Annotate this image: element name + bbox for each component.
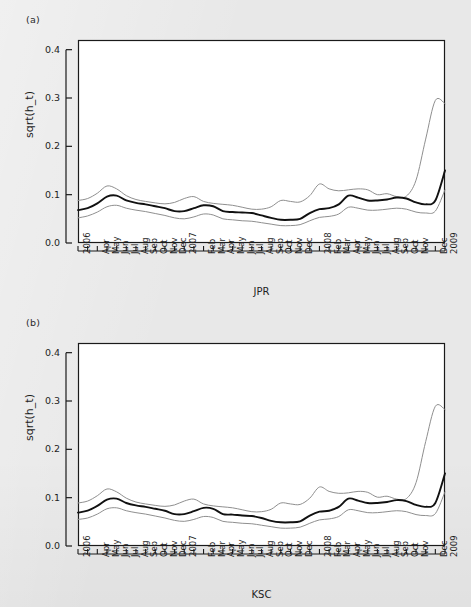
x-tick-label: Apr bbox=[226, 239, 236, 254]
panel-a-plot bbox=[0, 0, 471, 303]
x-tick-label: Feb bbox=[207, 542, 217, 557]
x-tick-label: Sep bbox=[149, 238, 159, 254]
x-tick-label: Apr bbox=[352, 239, 362, 254]
x-tick-label: Nov bbox=[294, 237, 304, 254]
plot-area bbox=[78, 343, 445, 546]
x-tick-label: Mar bbox=[342, 541, 352, 557]
x-tick-label: Nov bbox=[420, 237, 430, 254]
y-tick-label: 0.2 bbox=[34, 443, 60, 454]
x-tick-label: Jul bbox=[381, 547, 391, 557]
x-tick-label: Dec bbox=[304, 541, 314, 557]
x-tick-label: 2007 bbox=[188, 232, 198, 254]
y-tick-label: 0.0 bbox=[34, 540, 60, 551]
x-tick-label: Apr bbox=[101, 542, 111, 557]
x-tick-label: Jul bbox=[130, 547, 140, 557]
y-tick-label: 0.1 bbox=[34, 492, 60, 503]
y-tick-label: 0.3 bbox=[34, 92, 60, 103]
figure-page: (a) sqrt(h_t) JPR 0.00.10.20.30.42006Apr… bbox=[0, 0, 471, 607]
x-tick-label: Apr bbox=[352, 542, 362, 557]
x-tick-label: Sep bbox=[400, 541, 410, 557]
x-tick-label: Sep bbox=[400, 238, 410, 254]
x-tick-label: Feb bbox=[207, 239, 217, 254]
x-tick-label: May bbox=[236, 236, 246, 254]
x-tick-label: Jun bbox=[371, 241, 381, 254]
x-tick-label: Oct bbox=[410, 239, 420, 254]
x-tick-label: Jul bbox=[381, 244, 391, 254]
x-tick-label: Jun bbox=[371, 544, 381, 557]
x-tick-label: Aug bbox=[265, 237, 275, 254]
panel-b-plot bbox=[0, 303, 471, 606]
x-tick-label: 2008 bbox=[323, 535, 333, 557]
x-tick-label: Nov bbox=[420, 540, 430, 557]
x-tick-label: Oct bbox=[159, 542, 169, 557]
y-tick-label: 0.1 bbox=[34, 189, 60, 200]
x-tick-label: Jun bbox=[120, 544, 130, 557]
x-tick-label: Nov bbox=[294, 540, 304, 557]
x-tick-label: Apr bbox=[226, 542, 236, 557]
y-tick-label: 0.4 bbox=[34, 44, 60, 55]
x-tick-label: 2009 bbox=[449, 535, 459, 557]
x-tick-label: Dec bbox=[178, 541, 188, 557]
y-tick-label: 0.3 bbox=[34, 395, 60, 406]
x-tick-label: Apr bbox=[101, 239, 111, 254]
x-tick-label: Oct bbox=[159, 239, 169, 254]
x-tick-label: Jul bbox=[255, 244, 265, 254]
x-tick-label: Dec bbox=[439, 541, 449, 557]
x-tick-label: Jul bbox=[255, 547, 265, 557]
x-tick-label: Oct bbox=[284, 239, 294, 254]
x-tick-label: Jul bbox=[130, 244, 140, 254]
y-tick-label: 0.2 bbox=[34, 140, 60, 151]
x-tick-label: Dec bbox=[304, 238, 314, 254]
x-tick-label: Dec bbox=[178, 238, 188, 254]
panel-b: (b) sqrt(h_t) KSC 0.00.10.20.30.42006Apr… bbox=[0, 303, 471, 606]
plot-area bbox=[78, 40, 445, 243]
x-tick-label: Oct bbox=[284, 542, 294, 557]
x-tick-label: Dec bbox=[439, 238, 449, 254]
x-tick-label: Jun bbox=[120, 241, 130, 254]
x-tick-label: Sep bbox=[149, 541, 159, 557]
x-tick-label: Mar bbox=[342, 238, 352, 254]
x-tick-label: 2008 bbox=[323, 232, 333, 254]
x-tick-label: 2009 bbox=[449, 232, 459, 254]
x-tick-label: May bbox=[236, 539, 246, 557]
panel-a: (a) sqrt(h_t) JPR 0.00.10.20.30.42006Apr… bbox=[0, 0, 471, 303]
x-tick-label: 2007 bbox=[188, 535, 198, 557]
x-tick-label: 2006 bbox=[82, 535, 92, 557]
x-tick-label: Aug bbox=[265, 540, 275, 557]
x-tick-label: 2006 bbox=[82, 232, 92, 254]
x-tick-label: Oct bbox=[410, 542, 420, 557]
y-tick-label: 0.0 bbox=[34, 237, 60, 248]
y-tick-label: 0.4 bbox=[34, 347, 60, 358]
